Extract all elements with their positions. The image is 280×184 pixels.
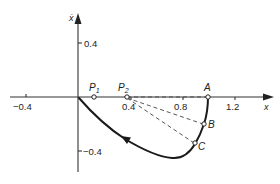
label-p2: P2 <box>118 82 129 94</box>
x-axis-label: x <box>263 102 269 112</box>
point-b <box>202 122 206 126</box>
dashed-lines <box>127 97 207 143</box>
x-tick-label: 0.8 <box>174 101 187 112</box>
y-axis: ẋ <box>68 13 82 172</box>
y-tick-label: 0.4 <box>84 38 97 49</box>
label-c: C <box>198 141 206 152</box>
phase-plane-diagram: x ẋ −0.4 0.4 0.8 1.2 0.4 −0.4 <box>0 0 280 184</box>
point-c <box>193 141 197 145</box>
label-a: A <box>203 82 211 93</box>
direction-arrow-icon <box>121 136 131 144</box>
point-a <box>206 95 210 99</box>
y-axis-arrow-icon <box>75 13 82 24</box>
dashed-line-p2-b <box>127 98 203 124</box>
points <box>92 95 210 145</box>
y-axis-label: ẋ <box>68 13 74 23</box>
point-p2 <box>125 95 129 99</box>
label-p1: P1 <box>89 82 100 94</box>
x-tick-label: 1.2 <box>226 101 239 112</box>
x-axis-arrow-icon <box>263 94 274 101</box>
x-tick-label: −0.4 <box>13 101 32 112</box>
point-p1 <box>92 95 96 99</box>
y-tick-label: −0.4 <box>83 146 102 157</box>
label-b: B <box>208 119 215 130</box>
